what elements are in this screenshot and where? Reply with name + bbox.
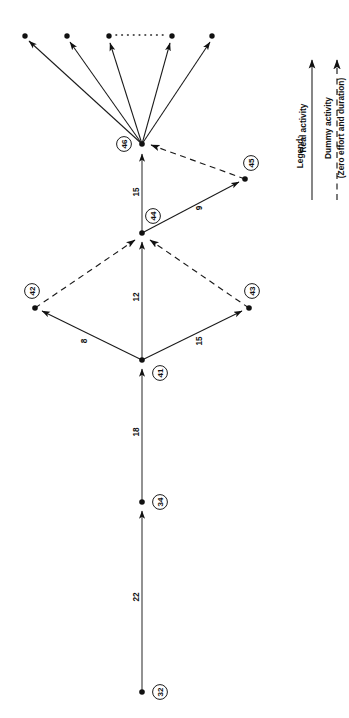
- node-44-dot: [139, 230, 145, 236]
- node-42-label: 42: [28, 286, 37, 295]
- fan-edges-group: [29, 35, 210, 144]
- node-45-label: 45: [247, 158, 256, 167]
- fan-edge-5: [142, 42, 210, 144]
- duration-labels-group: 22 18 8 15 12 9 15: [80, 187, 204, 602]
- node-34-label: 34: [156, 497, 165, 506]
- duration-label-44-46: 15: [132, 187, 141, 197]
- fan-edge-4: [142, 43, 170, 144]
- node-44-label: 44: [149, 211, 158, 220]
- fan-endpoint-5: [209, 33, 214, 38]
- fan-endpoint-2: [64, 33, 69, 38]
- node-32[interactable]: 32: [139, 685, 167, 700]
- duration-label-34-41: 18: [132, 427, 141, 437]
- node-43[interactable]: 43: [245, 284, 260, 311]
- node-43-label: 43: [248, 286, 257, 295]
- duration-label-32-34: 22: [132, 592, 141, 602]
- edge-43-44-dummy: [150, 240, 249, 308]
- edge-42-44-dummy: [35, 240, 135, 308]
- node-34-dot: [139, 499, 145, 505]
- node-41-dot: [139, 357, 145, 363]
- node-46-dot: [139, 141, 145, 147]
- legend-dummy-activity-sublabel: (Zero effort and duration): [336, 78, 346, 179]
- edges-group: [35, 145, 249, 692]
- node-42-dot: [32, 305, 38, 311]
- edge-45-46-dummy: [151, 145, 245, 179]
- node-41[interactable]: 41: [139, 357, 167, 380]
- duration-label-44-45: 9: [195, 205, 204, 210]
- node-45[interactable]: 45: [242, 156, 258, 182]
- node-34[interactable]: 34: [139, 495, 167, 510]
- duration-label-41-42: 8: [80, 338, 89, 343]
- duration-label-41-43: 15: [195, 336, 204, 346]
- fan-edge-1: [29, 41, 142, 144]
- node-32-dot: [139, 689, 145, 695]
- edge-44-45: [142, 182, 239, 233]
- legend-real-activity-label: Real activity: [298, 103, 308, 152]
- fan-endpoint-4: [169, 33, 174, 38]
- fan-endpoints-group: [22, 33, 214, 38]
- node-32-label: 32: [156, 687, 165, 696]
- legend-dummy-activity-label: Dummy activity: [323, 97, 333, 159]
- node-42[interactable]: 42: [25, 284, 40, 311]
- fan-edge-2: [70, 42, 142, 144]
- node-46-label: 46: [120, 139, 129, 148]
- duration-label-41-44: 12: [132, 292, 141, 302]
- edge-41-43: [142, 311, 242, 360]
- legend-group: Legend: Real activity Dummy activity (Ze…: [295, 60, 346, 200]
- fan-endpoint-1: [22, 33, 27, 38]
- fan-endpoint-3: [106, 33, 111, 38]
- network-diagram-svg: 32 34 41 42 43: [0, 0, 349, 718]
- edge-41-42: [42, 311, 142, 360]
- node-45-dot: [242, 176, 248, 182]
- node-41-label: 41: [156, 368, 165, 377]
- node-43-dot: [246, 305, 252, 311]
- diagram-canvas: 32 34 41 42 43: [0, 0, 349, 718]
